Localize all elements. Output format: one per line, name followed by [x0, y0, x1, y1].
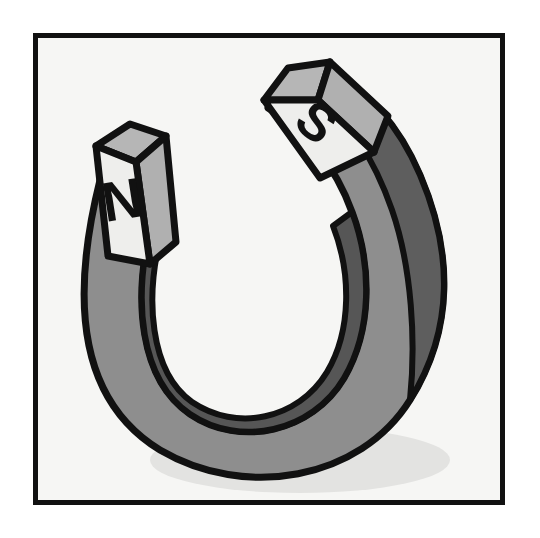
horseshoe-magnet-illustration: N S [0, 0, 540, 538]
north-pole-block: N [96, 124, 176, 264]
magnet-figure-svg: N S [0, 0, 540, 538]
